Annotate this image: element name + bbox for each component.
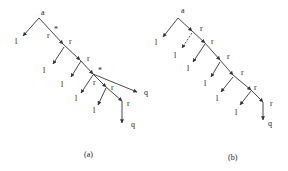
terminal-label: q — [268, 119, 272, 128]
edge-label-r: r — [69, 37, 72, 46]
figure-canvas: a * r r r * r r r l l l l l q q (a) — [0, 0, 288, 171]
edge-leaf — [211, 62, 220, 77]
panel-caption: (a) — [84, 150, 93, 159]
leaf-label: l — [43, 66, 46, 75]
leaf-label: l — [155, 38, 158, 47]
edge-label-r: r — [127, 99, 130, 108]
edge-label-r: r — [270, 99, 273, 108]
leaf-label: l — [216, 94, 219, 103]
edge-label-r: r — [111, 83, 114, 92]
star-label: * — [98, 66, 102, 75]
panel-b: a r r r r r r l l l l l l q (b) — [155, 6, 273, 162]
terminal-label: q — [144, 88, 148, 97]
root-label: a — [41, 8, 45, 17]
edge-leaf — [98, 88, 106, 105]
edge-label-r: r — [211, 37, 214, 46]
tree-diagram: a * r r r * r r r l l l l l q q (a) — [0, 0, 288, 171]
edge-leaf-dashed — [182, 33, 192, 48]
edge-leaf — [53, 47, 64, 64]
edge-spine — [233, 75, 251, 90]
panel-caption: (b) — [228, 153, 238, 162]
edge-spine — [178, 18, 192, 31]
leaf-label: l — [235, 108, 238, 117]
edge-leaf — [23, 18, 39, 36]
leaf-label: l — [75, 94, 78, 103]
leaf-label: l — [174, 51, 177, 60]
edge-label-r: r — [241, 68, 244, 77]
edge-spine — [63, 44, 80, 60]
star-label: * — [54, 25, 58, 34]
edge-leaf — [221, 77, 233, 92]
edge-leaf — [193, 44, 205, 62]
edge-label-r: r — [200, 24, 203, 33]
edge-spine — [39, 18, 63, 44]
edge-spine — [192, 31, 205, 43]
edge-leaf — [240, 91, 251, 105]
leaf-label: l — [187, 64, 190, 73]
edge-label-r: r — [254, 83, 257, 92]
leaf-label: l — [204, 79, 207, 88]
edge-spine — [106, 87, 122, 101]
panel-a: a * r r r * r r r l l l l l q q (a) — [15, 8, 148, 159]
leaf-label: l — [15, 37, 18, 46]
edge-spine — [220, 60, 233, 75]
edge-to-q — [93, 74, 137, 92]
root-label: a — [181, 6, 185, 15]
edge-leaf — [163, 18, 178, 37]
leaf-label: l — [61, 80, 64, 89]
edge-label-r: r — [227, 52, 230, 61]
edge-leaf — [71, 61, 81, 77]
edge-spine — [251, 90, 263, 102]
edge-leaf — [81, 75, 93, 93]
edge-label-r: r — [93, 78, 96, 87]
leaf-label: l — [93, 106, 96, 115]
edge-label-r: r — [87, 54, 90, 63]
terminal-label: q — [131, 120, 135, 129]
edge-label-r: r — [47, 31, 50, 40]
